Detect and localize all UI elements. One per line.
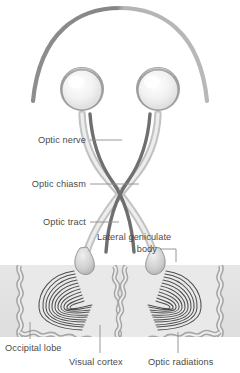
label-lateral-geniculate-body-line2: body xyxy=(137,244,158,254)
label-visual-cortex: Visual cortex xyxy=(69,357,123,367)
label-optic-tract: Optic tract xyxy=(43,217,86,227)
anatomy-diagram: Optic nerve Optic chiasm Optic tract Lat… xyxy=(0,0,240,373)
skull-arc xyxy=(33,8,207,101)
right-eye xyxy=(136,67,180,111)
label-occipital-lobe: Occipital lobe xyxy=(5,343,62,353)
brain-region xyxy=(0,265,240,344)
left-occipital-lobe xyxy=(18,265,124,344)
right-occipital-lobe xyxy=(116,265,222,344)
label-optic-chiasm: Optic chiasm xyxy=(32,179,87,189)
label-lateral-geniculate-body: Lateral geniculate xyxy=(97,232,171,242)
left-eye xyxy=(60,67,104,111)
label-optic-nerve: Optic nerve xyxy=(38,135,86,145)
visual-pathway-figure: Optic nerve Optic chiasm Optic tract Lat… xyxy=(0,0,240,373)
label-optic-radiations: Optic radiations xyxy=(148,357,214,367)
left-lateral-geniculate-body xyxy=(75,247,95,275)
